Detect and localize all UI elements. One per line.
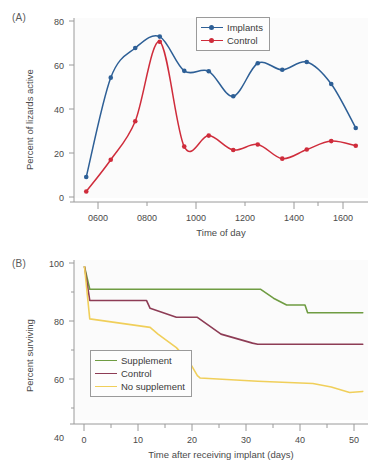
x-tick-label-b: 10 bbox=[133, 435, 143, 445]
legend-swatch-no-supplement bbox=[95, 382, 117, 392]
legend-item-control-a: Control bbox=[201, 34, 263, 47]
y-tick-label-a: 20 bbox=[54, 149, 64, 159]
x-tick-label-b: 50 bbox=[349, 435, 359, 445]
x-ticks-a: 0600 0800 1000 1200 1400 1600 bbox=[88, 202, 353, 223]
legend-item-implants: Implants bbox=[201, 21, 263, 34]
legend-swatch-implants bbox=[201, 23, 223, 33]
y-tick-label-a: 80 bbox=[54, 17, 64, 27]
x-tick-label-a: 1200 bbox=[235, 213, 255, 223]
panel-b: (B) 100 80 60 40 bbox=[0, 240, 388, 469]
legend-swatch-control-a bbox=[201, 36, 223, 46]
y-tick-label-a: 60 bbox=[54, 61, 64, 71]
y-tick-label-b: 40 bbox=[54, 433, 64, 443]
y-tick-label-b: 80 bbox=[54, 317, 64, 327]
legend-item-control-b: Control bbox=[95, 367, 185, 380]
x-axis-title-b: Time after receiving implant (days) bbox=[74, 449, 368, 460]
y-tick-label-a: 40 bbox=[54, 105, 64, 115]
x-tick-label-a: 0800 bbox=[137, 213, 157, 223]
legend-b: Supplement Control No supplement bbox=[90, 350, 192, 397]
x-tick-label-b: 0 bbox=[81, 435, 86, 445]
legend-label-control-a: Control bbox=[227, 34, 258, 47]
legend-label-no-supplement: No supplement bbox=[121, 380, 185, 393]
y-tick-label-b: 60 bbox=[54, 375, 64, 385]
panel-a: (A) 80 60 40 20 0 bbox=[0, 0, 388, 240]
y-tick-label-a: 0 bbox=[59, 193, 64, 203]
legend-label-implants: Implants bbox=[227, 21, 263, 34]
legend-label-supplement: Supplement bbox=[121, 354, 172, 367]
panel-b-plot: 100 80 60 40 0 10 20 30 bbox=[0, 240, 388, 469]
legend-item-no-supplement: No supplement bbox=[95, 380, 185, 393]
figure-container: (A) 80 60 40 20 0 bbox=[0, 0, 388, 469]
x-axis-title-a: Time of day bbox=[74, 227, 368, 238]
x-tick-label-b: 20 bbox=[187, 435, 197, 445]
y-axis-title-b: Percent surviving bbox=[24, 319, 35, 392]
x-tick-label-b: 30 bbox=[241, 435, 251, 445]
x-tick-label-b: 40 bbox=[295, 435, 305, 445]
legend-label-control-b: Control bbox=[121, 367, 152, 380]
y-ticks-a: 80 60 40 20 0 bbox=[54, 17, 74, 203]
legend-swatch-control-b bbox=[95, 369, 117, 379]
y-ticks-b: 100 80 60 40 bbox=[49, 259, 74, 443]
y-tick-label-b: 100 bbox=[49, 259, 64, 269]
x-tick-label-a: 1600 bbox=[333, 213, 353, 223]
panel-a-plot: 80 60 40 20 0 0600 0800 1000 1200 1400 bbox=[0, 0, 388, 240]
x-tick-label-a: 1000 bbox=[186, 213, 206, 223]
x-ticks-b: 0 10 20 30 40 50 bbox=[81, 424, 359, 445]
legend-a: Implants Control bbox=[196, 17, 270, 51]
legend-swatch-supplement bbox=[95, 356, 117, 366]
x-tick-label-a: 0600 bbox=[88, 213, 108, 223]
x-tick-label-a: 1400 bbox=[284, 213, 304, 223]
legend-item-supplement: Supplement bbox=[95, 354, 185, 367]
y-axis-title-a: Percent of lizards active bbox=[24, 69, 35, 170]
